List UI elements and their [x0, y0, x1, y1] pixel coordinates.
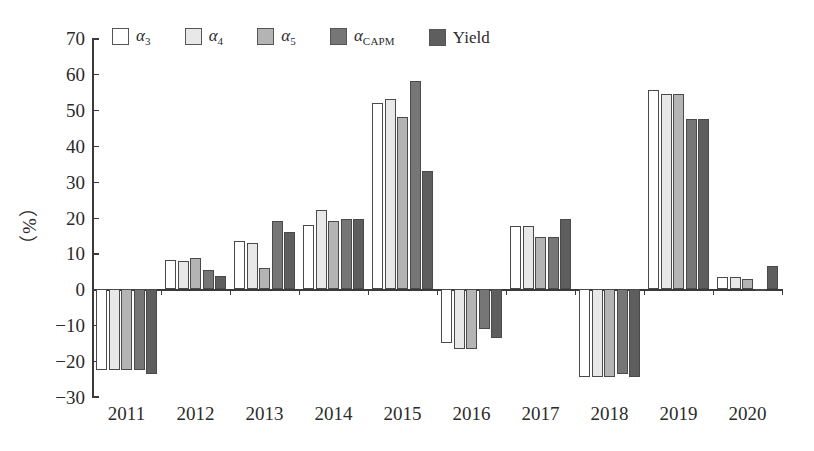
bar-yield-2013[interactable]	[284, 232, 295, 289]
x-tick	[299, 289, 300, 295]
bar-group-2020	[713, 38, 782, 397]
bar-alpha5-2019[interactable]	[673, 94, 684, 290]
bar-yield-2017[interactable]	[560, 219, 571, 289]
x-tick	[230, 289, 231, 295]
bar-alpha3-2016[interactable]	[441, 289, 452, 343]
bar-alpha3-2012[interactable]	[165, 260, 176, 289]
bar-alphaCAPM-2016[interactable]	[479, 289, 490, 328]
y-tick-label: 50	[66, 100, 85, 119]
bar-alpha4-2016[interactable]	[454, 289, 465, 348]
bar-group-2017	[506, 38, 575, 397]
bar-alpha4-2014[interactable]	[316, 210, 327, 289]
bar-alpha3-2018[interactable]	[579, 289, 590, 377]
bar-chart: α3α4α5αCAPMYield （%） 706050403020100−10−…	[0, 0, 814, 451]
y-tick-label: 70	[66, 29, 85, 48]
bar-alpha4-2013[interactable]	[247, 243, 258, 290]
bar-yield-2012[interactable]	[215, 276, 226, 290]
bar-alpha4-2018[interactable]	[592, 289, 603, 377]
bar-alpha5-2020[interactable]	[742, 279, 753, 290]
bar-alpha5-2016[interactable]	[466, 289, 477, 348]
plot-area: 706050403020100−10−20−30 201120122013201…	[92, 38, 782, 397]
bar-alpha4-2020[interactable]	[730, 277, 741, 290]
bar-alphaCAPM-2011[interactable]	[134, 289, 145, 370]
bar-alphaCAPM-2013[interactable]	[272, 221, 283, 289]
x-tick-label-2018: 2018	[591, 404, 629, 423]
bar-alpha5-2017[interactable]	[535, 237, 546, 289]
x-tick	[161, 289, 162, 295]
x-tick-label-2014: 2014	[315, 404, 353, 423]
bar-alpha5-2015[interactable]	[397, 117, 408, 289]
bar-group-2018	[575, 38, 644, 397]
x-tick	[575, 289, 576, 295]
bar-alpha3-2014[interactable]	[303, 225, 314, 290]
bar-yield-2016[interactable]	[491, 289, 502, 337]
x-tick	[713, 289, 714, 295]
x-tick	[782, 289, 783, 295]
bar-yield-2014[interactable]	[353, 219, 364, 289]
bar-alphaCAPM-2014[interactable]	[341, 219, 352, 289]
x-tick-label-2015: 2015	[384, 404, 422, 423]
bar-alpha5-2011[interactable]	[121, 289, 132, 370]
bar-group-bars	[92, 38, 161, 397]
bar-alphaCAPM-2012[interactable]	[203, 270, 214, 290]
y-tick-label: 60	[66, 64, 85, 83]
bar-alpha3-2017[interactable]	[510, 226, 521, 289]
x-tick	[644, 289, 645, 295]
bar-group-bars	[368, 38, 437, 397]
bar-alphaCAPM-2020[interactable]	[755, 289, 766, 291]
bar-group-bars	[437, 38, 506, 397]
x-tick-label-2011: 2011	[108, 404, 145, 423]
bar-alpha4-2012[interactable]	[178, 261, 189, 289]
bar-group-2016	[437, 38, 506, 397]
bar-yield-2019[interactable]	[698, 119, 709, 290]
bar-alphaCAPM-2018[interactable]	[617, 289, 628, 373]
bar-group-bars	[713, 38, 782, 397]
bar-group-2012	[161, 38, 230, 397]
bar-alpha3-2019[interactable]	[648, 90, 659, 289]
x-tick-label-2016: 2016	[453, 404, 491, 423]
y-tick-label: 40	[66, 136, 85, 155]
y-tick-label: −10	[55, 316, 85, 335]
y-tick	[92, 397, 99, 398]
bar-alpha5-2018[interactable]	[604, 289, 615, 377]
bar-alphaCAPM-2019[interactable]	[686, 119, 697, 290]
bar-group-2015	[368, 38, 437, 397]
bar-alpha4-2017[interactable]	[523, 226, 534, 289]
bar-group-2019	[644, 38, 713, 397]
bar-alpha4-2015[interactable]	[385, 99, 396, 289]
bar-alpha3-2011[interactable]	[96, 289, 107, 370]
bar-alpha5-2012[interactable]	[190, 258, 201, 290]
bar-yield-2020[interactable]	[767, 266, 778, 289]
bar-alpha5-2014[interactable]	[328, 221, 339, 289]
y-tick-label: 20	[66, 208, 85, 227]
y-tick-label: 10	[66, 244, 85, 263]
y-tick-label: 30	[66, 172, 85, 191]
bar-yield-2011[interactable]	[146, 289, 157, 373]
x-tick-label-2017: 2017	[522, 404, 560, 423]
bar-group-bars	[230, 38, 299, 397]
bar-alpha4-2019[interactable]	[661, 94, 672, 290]
bar-yield-2015[interactable]	[422, 171, 433, 289]
x-tick-label-2020: 2020	[729, 404, 767, 423]
bar-alpha3-2013[interactable]	[234, 241, 245, 289]
x-tick-label-2019: 2019	[660, 404, 698, 423]
bar-alpha3-2020[interactable]	[717, 277, 728, 290]
y-axis-title-text: （%）	[14, 197, 41, 254]
y-tick-label: 0	[76, 280, 86, 299]
bar-group-bars	[299, 38, 368, 397]
bar-group-2013	[230, 38, 299, 397]
bar-group-bars	[575, 38, 644, 397]
y-tick-label: −20	[55, 352, 85, 371]
y-axis-title: （%）	[14, 0, 40, 451]
bar-group-bars	[506, 38, 575, 397]
bar-group-bars	[161, 38, 230, 397]
bar-alphaCAPM-2015[interactable]	[410, 81, 421, 289]
bar-alphaCAPM-2017[interactable]	[548, 237, 559, 289]
x-tick	[368, 289, 369, 295]
y-tick-label: −30	[55, 388, 85, 407]
bar-yield-2018[interactable]	[629, 289, 640, 377]
bar-alpha3-2015[interactable]	[372, 103, 383, 290]
bar-alpha4-2011[interactable]	[109, 289, 120, 370]
bar-groups	[92, 38, 782, 397]
bar-alpha5-2013[interactable]	[259, 268, 270, 290]
